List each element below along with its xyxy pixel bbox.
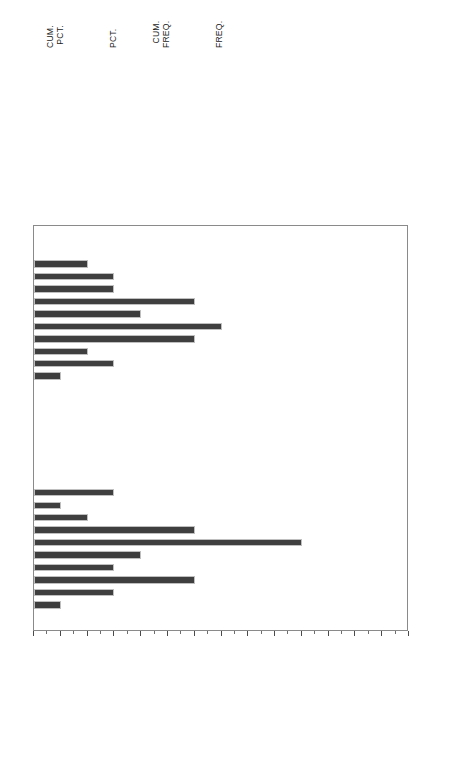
fertility-rate-axis: 1234567891011121314151234567891011121314… — [0, 0, 449, 770]
